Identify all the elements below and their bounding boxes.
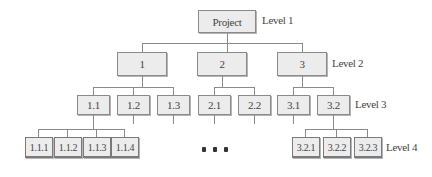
level-1-label: Level 1 [262,14,293,26]
connector [293,87,294,95]
node-3-2-3: 3.2.3 [354,137,382,158]
connector [254,87,255,95]
node-3-2: 3.2 [317,95,350,115]
node-1-1-2: 1.1.2 [54,137,82,158]
connector [142,43,143,52]
connector [302,76,303,87]
connector [133,115,134,124]
ellipsis-dot [202,147,206,152]
node-2-1: 2.1 [198,95,231,115]
node-2-2: 2.2 [238,95,271,115]
connector [333,87,334,95]
node-label: 1.1.2 [59,142,78,153]
node-3-1: 3.1 [277,95,310,115]
node-label: 2.1 [208,99,221,111]
node-label: 3.2.1 [297,142,316,153]
node-label: 3 [299,58,304,70]
node-3: 3 [277,52,327,76]
node-1-3: 1.3 [157,95,190,115]
connector [227,43,228,52]
connector [336,129,337,137]
connector [305,129,306,137]
node-project: Project [198,10,256,33]
node-label: 1.2 [127,99,140,111]
connector [214,87,255,88]
connector [293,87,334,88]
node-3-2-1: 3.2.1 [292,137,320,158]
ellipsis-dot [224,147,228,152]
connector [227,33,228,43]
node-label: 3.1 [287,99,300,111]
connector [93,87,94,95]
connector [38,129,125,130]
connector [254,115,255,124]
node-label: 1 [139,58,144,70]
connector [38,129,39,137]
connector [142,43,303,44]
connector [222,76,223,87]
node-label: 1.3 [167,99,180,111]
connector [96,129,97,137]
node-label: 1.1.3 [88,142,107,153]
node-label: 3.2.3 [359,142,378,153]
node-label: 2 [219,58,224,70]
node-1-1-4: 1.1.4 [111,137,139,158]
level-4-label: Level 4 [386,141,417,153]
node-label: 2.2 [248,99,261,111]
connector [214,115,215,124]
connector [214,87,215,95]
connector [173,87,174,95]
node-label: 1.1.4 [116,142,135,153]
connector [142,76,143,87]
node-1-1-1: 1.1.1 [25,137,53,158]
connector [67,129,68,137]
connector [173,115,174,124]
level-2-label: Level 2 [332,57,363,69]
node-label: 3.2.2 [328,142,347,153]
node-label: 1.1.1 [30,142,49,153]
connector [367,129,368,137]
node-2: 2 [197,52,247,76]
node-label: Project [212,16,241,28]
node-1-1-3: 1.1.3 [83,137,111,158]
ellipsis-dot [213,147,217,152]
node-3-2-2: 3.2.2 [323,137,351,158]
node-1: 1 [117,52,167,76]
node-1-2: 1.2 [117,95,150,115]
connector [333,115,334,129]
connector [124,129,125,137]
node-label: 3.2 [327,99,340,111]
connector [302,43,303,52]
connector [293,115,294,124]
node-label: 1.1 [87,99,100,111]
connector [93,115,94,129]
connector [133,87,134,95]
node-1-1: 1.1 [77,95,110,115]
level-3-label: Level 3 [355,98,386,110]
